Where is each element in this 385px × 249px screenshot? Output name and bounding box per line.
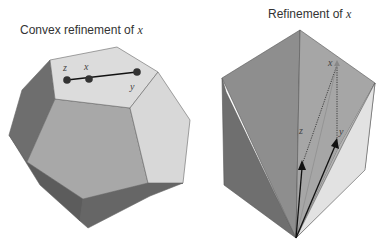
dodecahedron	[9, 47, 190, 228]
label-z-left: z	[62, 62, 67, 73]
label-x-left: x	[83, 61, 89, 72]
point-z	[63, 76, 71, 84]
label-x-right: x	[327, 57, 333, 68]
point-y	[133, 68, 141, 76]
diagram-canvas: z x y x z y	[0, 0, 385, 249]
label-y-right: y	[338, 126, 344, 137]
label-z-right: z	[298, 125, 303, 136]
point-x	[85, 75, 93, 83]
label-y-left: y	[129, 81, 135, 92]
